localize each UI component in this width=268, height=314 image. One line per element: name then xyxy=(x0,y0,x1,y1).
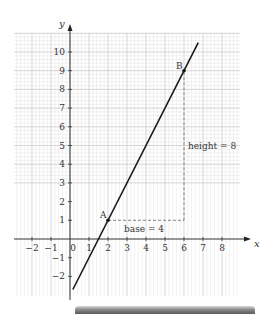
y-tick-label: 3 xyxy=(59,178,65,188)
x-axis-label: x xyxy=(254,238,260,249)
bottom-shadow-bar xyxy=(75,306,255,314)
x-tick-label: 5 xyxy=(162,243,168,253)
y-tick-label: −1 xyxy=(52,253,65,263)
x-tick-label: 6 xyxy=(181,243,187,253)
x-tick-label: −2 xyxy=(25,243,38,253)
y-tick-label: 4 xyxy=(59,159,65,169)
linear-function-line xyxy=(73,43,198,290)
point-b-marker xyxy=(182,69,186,73)
x-tick-label: −1 xyxy=(44,243,57,253)
y-tick-label: 9 xyxy=(59,66,65,76)
coordinate-plane: −2−1012345678−2−112345678910 x y A B bas… xyxy=(0,0,268,314)
y-tick-label: 10 xyxy=(54,47,66,57)
x-tick-label: 1 xyxy=(86,243,92,253)
x-tick-label: 3 xyxy=(124,243,130,253)
y-tick-label: 7 xyxy=(59,103,65,113)
y-tick-label: 1 xyxy=(59,215,65,225)
y-tick-label: 2 xyxy=(59,197,65,207)
point-a-marker xyxy=(106,219,110,223)
x-tick-label: 2 xyxy=(105,243,111,253)
point-a-label: A xyxy=(99,210,107,220)
y-tick-label: 8 xyxy=(59,84,65,94)
x-tick-label: 8 xyxy=(219,243,225,253)
y-tick-label: 6 xyxy=(59,122,65,132)
axes xyxy=(14,24,251,300)
y-tick-label: −2 xyxy=(52,271,65,281)
y-axis-arrow-icon xyxy=(68,24,73,31)
x-tick-label: 0 xyxy=(70,243,76,253)
point-b-label: B xyxy=(176,61,183,71)
x-tick-label: 7 xyxy=(200,243,206,253)
x-tick-label: 4 xyxy=(143,243,149,253)
x-axis-arrow-icon xyxy=(244,237,251,242)
height-annotation: height = 8 xyxy=(188,141,236,151)
grid-major-lines xyxy=(14,33,240,296)
base-annotation: base = 4 xyxy=(124,224,164,234)
y-tick-label: 5 xyxy=(59,141,65,151)
y-axis-label: y xyxy=(58,18,65,29)
